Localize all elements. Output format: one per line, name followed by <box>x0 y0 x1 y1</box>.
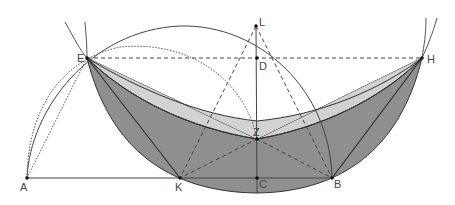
vertical-arc-right <box>422 18 426 58</box>
label-d: D <box>259 60 267 72</box>
label-b: B <box>334 178 341 190</box>
outer-arc-right <box>422 18 437 58</box>
label-c: C <box>259 178 267 190</box>
label-k: K <box>175 181 183 193</box>
point-l <box>254 24 258 28</box>
point-e <box>85 56 89 60</box>
label-e: E <box>77 52 84 64</box>
geometry-diagram: A K C B E D H L Z <box>0 0 455 205</box>
label-z: Z <box>253 126 260 138</box>
vertical-arc-left <box>85 22 87 58</box>
point-a <box>25 176 29 180</box>
label-l: L <box>259 16 265 28</box>
label-h: H <box>427 53 435 65</box>
point-h <box>420 56 424 60</box>
dotted-line-a-e <box>27 58 87 178</box>
label-a: A <box>20 181 28 193</box>
point-k <box>178 176 182 180</box>
